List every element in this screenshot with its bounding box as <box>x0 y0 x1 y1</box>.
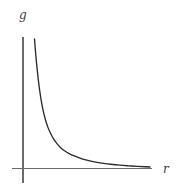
decay-curve <box>35 39 151 167</box>
figure-container: g r <box>0 0 187 191</box>
plot-svg <box>0 0 187 191</box>
x-axis-label: r <box>163 163 169 175</box>
y-axis-label: g <box>19 9 27 21</box>
